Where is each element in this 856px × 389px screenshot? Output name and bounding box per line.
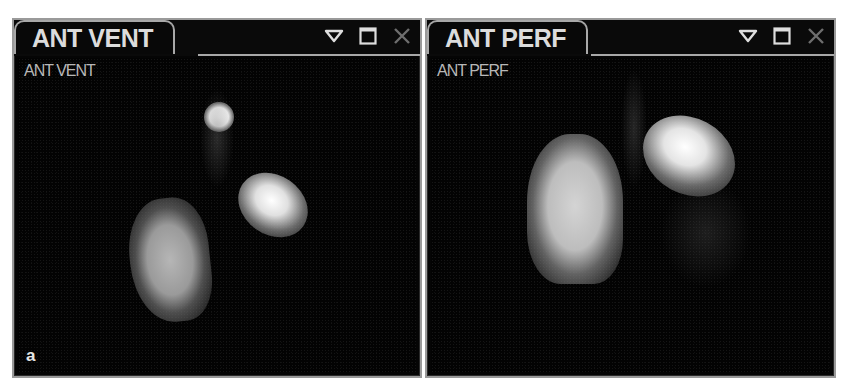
tab-divider — [591, 54, 834, 56]
window-controls — [738, 24, 826, 48]
tab-ant-perf[interactable]: ANT PERF — [427, 20, 588, 54]
window-title-bar: ANT PERF — [427, 20, 834, 56]
left-lung-lower-faint — [661, 178, 751, 288]
trachea-faint — [200, 88, 234, 188]
triangle-down-icon — [324, 29, 344, 43]
scintigraphy-image-perfusion[interactable]: ANT PERF — [431, 58, 830, 372]
tab-divider — [198, 54, 420, 56]
ant-perf-viewer-window: ANT PERF ANT PERF — [425, 18, 836, 378]
image-overlay-label: ANT PERF — [437, 62, 508, 80]
triangle-down-icon — [738, 29, 758, 43]
image-overlay-label: ANT VENT — [24, 62, 95, 80]
close-icon — [393, 27, 411, 45]
tab-ant-vent[interactable]: ANT VENT — [14, 20, 175, 54]
dropdown-button[interactable] — [324, 26, 344, 46]
maximize-icon — [359, 27, 377, 45]
close-button[interactable] — [392, 26, 412, 46]
close-button[interactable] — [806, 26, 826, 46]
mediastinum-faint — [621, 68, 647, 188]
maximize-button[interactable] — [358, 26, 378, 46]
window-controls — [324, 24, 412, 48]
ant-vent-viewer-window: ANT VENT ANT VENT a — [12, 18, 422, 378]
close-icon — [807, 27, 825, 45]
figure-panel-letter: a — [26, 346, 35, 366]
right-lung-perfusion — [527, 134, 623, 284]
window-title-bar: ANT VENT — [14, 20, 420, 56]
scintigraphy-image-ventilation[interactable]: ANT VENT a — [18, 58, 416, 372]
dropdown-button[interactable] — [738, 26, 758, 46]
maximize-icon — [773, 27, 791, 45]
maximize-button[interactable] — [772, 26, 792, 46]
